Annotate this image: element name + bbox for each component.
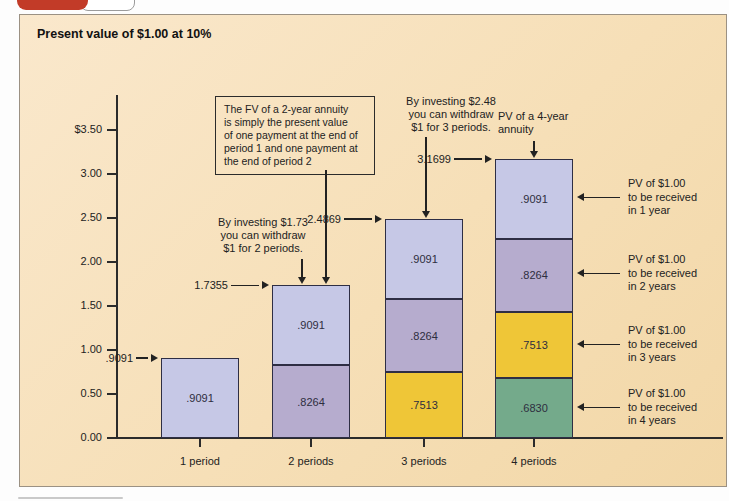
right-callout-3-years: PV of $1.00 to be received in 3 years — [577, 324, 697, 365]
y-axis-tick-label: 2.50 — [58, 211, 102, 223]
right-callout-text: PV of $1.00 to be received in 2 years — [628, 253, 697, 294]
bar-segment: .9091 — [272, 285, 350, 365]
bar-segment: .7513 — [495, 312, 573, 378]
bar-segment: .7513 — [385, 372, 463, 438]
right-arrow-icon — [485, 155, 492, 163]
x-axis-tick — [533, 439, 535, 447]
right-callout-text: PV of $1.00 to be received in 4 years — [628, 387, 697, 428]
left-arrow-icon — [577, 269, 584, 277]
x-axis-category-label: 2 periods — [266, 455, 356, 467]
bar-segment-value: .9091 — [520, 193, 548, 205]
bar-segment: .8264 — [272, 365, 350, 438]
bar-segment-value: .7513 — [520, 339, 548, 351]
right-arrow-icon — [262, 281, 269, 289]
bar-segment: .9091 — [385, 219, 463, 299]
arrow-line — [584, 273, 620, 275]
x-axis-tick — [199, 439, 201, 447]
annotation-fv-2yr-box: The FV of a 2-year annuity is simply the… — [215, 96, 375, 175]
y-axis-tick — [107, 217, 116, 219]
y-axis-line — [116, 95, 118, 438]
y-axis-tick-label: 3.00 — [58, 167, 102, 179]
annotation-pv-4yr: PV of a 4-year annuity — [498, 110, 593, 136]
y-axis-tick — [107, 261, 116, 263]
bar-total-callout: .9091 — [105, 350, 158, 366]
cutoff-bottom-element — [18, 497, 123, 499]
right-callout-text: PV of $1.00 to be received in 3 years — [628, 324, 697, 365]
y-axis-tick-label: 1.50 — [58, 299, 102, 311]
bar-segment: .8264 — [495, 239, 573, 312]
x-axis-category-label: 1 period — [155, 455, 245, 467]
bar-segment-value: .8264 — [520, 269, 548, 281]
bar-total-value: 3.1699 — [417, 153, 451, 165]
bar-segment-value: .9091 — [297, 319, 325, 331]
y-axis-tick — [107, 173, 116, 175]
bar-segment-value: .9091 — [186, 392, 214, 404]
bar-segment: .9091 — [495, 159, 573, 239]
bar-total-value: 1.7355 — [194, 279, 228, 291]
cutoff-red-tab — [17, 0, 88, 10]
annotation-arrow-173-to-bar2 — [301, 259, 303, 278]
right-callout-4-years: PV of $1.00 to be received in 4 years — [577, 387, 697, 428]
bar-segment-value: .6830 — [520, 402, 548, 414]
annotation-arrow-4yr-to-bar4 — [533, 141, 535, 152]
right-callout-1-year: PV of $1.00 to be received in 1 year — [577, 177, 697, 218]
y-axis-tick-label: 2.00 — [58, 255, 102, 267]
arrow-line — [454, 158, 482, 160]
right-arrow-icon — [375, 215, 382, 223]
figure-page: Present value of $1.00 at 10% $3.503.002… — [0, 0, 729, 501]
arrow-line — [584, 197, 620, 199]
y-axis-tick — [107, 437, 116, 439]
left-arrow-icon — [577, 193, 584, 201]
bar-segment: .8264 — [385, 299, 463, 372]
bar-segment: .6830 — [495, 378, 573, 438]
arrow-line — [136, 357, 148, 359]
y-axis-tick-label: $3.50 — [58, 123, 102, 135]
y-axis-tick-label: 0.00 — [58, 431, 102, 443]
left-arrow-icon — [577, 340, 584, 348]
y-axis-tick — [107, 393, 116, 395]
annotation-arrow-248-to-bar3 — [425, 137, 427, 212]
arrow-line — [584, 407, 620, 409]
right-callout-2-years: PV of $1.00 to be received in 2 years — [577, 253, 697, 294]
y-axis-tick — [107, 129, 116, 131]
arrow-line — [231, 285, 259, 287]
bar-segment-value: .9091 — [410, 253, 438, 265]
left-arrow-icon — [577, 403, 584, 411]
bar-segment: .9091 — [161, 358, 239, 438]
x-axis-category-label: 3 periods — [379, 455, 469, 467]
bar-segment-value: .8264 — [297, 396, 325, 408]
x-axis-tick — [310, 439, 312, 447]
arrow-line — [344, 218, 372, 220]
cutoff-white-tab — [80, 0, 135, 11]
y-axis-tick — [107, 305, 116, 307]
bar-segment-value: .8264 — [410, 330, 438, 342]
bar-segment-value: .7513 — [410, 399, 438, 411]
annotation-invest-173: By investing $1.73 you can withdraw $1 f… — [202, 216, 324, 255]
right-callout-text: PV of $1.00 to be received in 1 year — [628, 177, 697, 218]
annotation-arrow-box-to-bar2 — [325, 170, 327, 278]
x-axis-category-label: 4 periods — [489, 455, 579, 467]
annotation-invest-248: By investing $2.48 you can withdraw $1 f… — [392, 95, 510, 134]
y-axis-tick-label: 0.50 — [58, 387, 102, 399]
arrow-line — [584, 344, 620, 346]
chart-title: Present value of $1.00 at 10% — [37, 27, 211, 41]
right-arrow-icon — [151, 354, 158, 362]
bar-total-callout: 3.1699 — [417, 151, 492, 167]
bar-total-value: .9091 — [105, 352, 133, 364]
x-axis-tick — [423, 439, 425, 447]
bar-total-callout: 1.7355 — [194, 277, 269, 293]
y-axis-tick-label: 1.00 — [58, 343, 102, 355]
